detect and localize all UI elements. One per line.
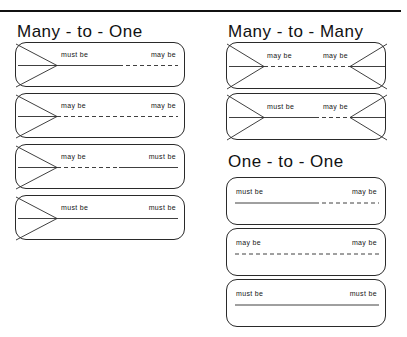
relation-right-label: may be <box>323 52 348 59</box>
relation-left-label: may be <box>267 52 292 59</box>
relation-left-label: must be <box>236 188 263 195</box>
section-title-many-to-one: Many - to - One <box>17 22 143 42</box>
relation-line-graphic <box>16 94 186 139</box>
relation-right-label: may be <box>151 51 176 58</box>
relation-card[interactable]: must be may be <box>226 177 386 225</box>
diagram-page: Many - to - One must be may be may be ma <box>0 0 407 337</box>
relation-right-label: may be <box>352 239 377 246</box>
relation-line-graphic <box>16 196 186 241</box>
relation-line-graphic <box>16 43 186 88</box>
relation-left-label: may be <box>61 153 86 160</box>
relation-right-label: may be <box>151 102 176 109</box>
relation-card[interactable]: must be may be <box>226 93 386 140</box>
relation-right-label: must be <box>149 204 176 211</box>
relation-right-label: may be <box>352 188 377 195</box>
relation-left-label: must be <box>267 103 294 110</box>
header-rule <box>0 10 401 12</box>
relation-left-label: must be <box>61 51 88 58</box>
relation-left-label: must be <box>236 290 263 297</box>
section-title-many-to-many: Many - to - Many <box>228 22 364 42</box>
relation-line-graphic <box>227 229 387 277</box>
relation-line-graphic <box>227 43 387 90</box>
relation-card[interactable]: may be may be <box>226 42 386 89</box>
relation-card[interactable]: may be must be <box>15 144 185 189</box>
relation-card[interactable]: may be may be <box>15 93 185 138</box>
relation-left-label: must be <box>61 204 88 211</box>
relation-right-label: must be <box>149 153 176 160</box>
relation-right-label: must be <box>350 290 377 297</box>
relation-line-graphic <box>227 280 387 328</box>
relation-right-label: may be <box>323 103 348 110</box>
relation-card[interactable]: must be may be <box>15 42 185 87</box>
section-title-one-to-one: One - to - One <box>228 152 344 172</box>
relation-line-graphic <box>227 94 387 141</box>
relation-line-graphic <box>227 178 387 226</box>
relation-card[interactable]: must be must be <box>15 195 185 240</box>
relation-left-label: may be <box>61 102 86 109</box>
relation-line-graphic <box>16 145 186 190</box>
relation-left-label: may be <box>236 239 261 246</box>
relation-card[interactable]: may be may be <box>226 228 386 276</box>
relation-card[interactable]: must be must be <box>226 279 386 327</box>
